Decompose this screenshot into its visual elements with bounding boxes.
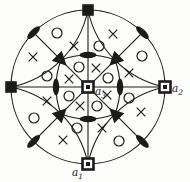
coxeter-disk-diagram: a1a2a3 (0, 0, 190, 182)
filled-square-node (82, 4, 94, 16)
figure-canvas: a1a2a3 (0, 0, 190, 182)
open-square-dot (86, 85, 90, 89)
lens-marker (53, 79, 59, 96)
open-square-node (83, 82, 94, 93)
open-square-dot (163, 85, 167, 89)
lens-marker (80, 116, 97, 122)
filled-square-node (5, 81, 17, 93)
open-square-dot (86, 162, 90, 166)
open-square-node (83, 159, 94, 170)
open-square-node (160, 82, 171, 93)
lens-marker (117, 79, 123, 96)
lens-marker (80, 52, 97, 58)
